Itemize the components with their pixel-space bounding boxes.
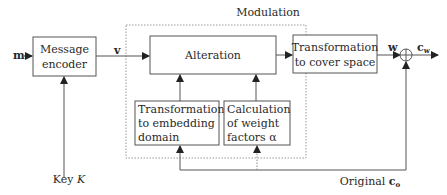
signal-w: w	[387, 41, 398, 54]
message-encoder-label-2: encoder	[42, 58, 88, 71]
signal-cw: cw	[417, 41, 431, 55]
watermark-embedding-diagram: Modulation Message encoder Alteration Tr…	[0, 0, 447, 195]
alteration-label: Alteration	[184, 49, 241, 62]
signal-v: v	[113, 44, 121, 57]
transform-embed-label-1: Transformation	[138, 103, 224, 116]
signal-m: m	[13, 49, 25, 62]
signal-key: Key K	[53, 173, 86, 186]
transform-embed-label-2: to embedding	[138, 117, 215, 130]
message-encoder-label-1: Message	[40, 43, 89, 56]
weight-calc-label-1: Calculation	[227, 103, 290, 116]
modulation-label: Modulation	[236, 6, 300, 19]
transform-cover-label-1: Transformation	[292, 41, 378, 54]
weight-calc-label-3: factors α	[227, 131, 277, 144]
transform-embed-label-3: domain	[138, 131, 179, 144]
weight-calc-label-2: of weight	[227, 117, 280, 130]
transform-cover-label-2: to cover space	[295, 56, 376, 69]
signal-original: Original co	[340, 175, 401, 189]
